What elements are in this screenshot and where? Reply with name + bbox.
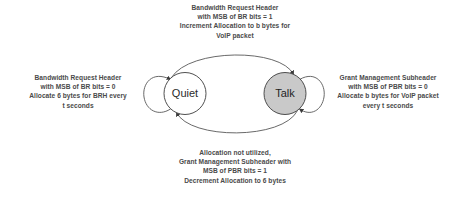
transition-label-quiet-to-talk: Bandwidth Request Header with MSB of BR …	[142, 3, 328, 40]
transition-label-talk-to-quiet: Allocation not utilized, Grant Managemen…	[138, 148, 332, 185]
transition-label-talk-self-loop: Grant Management Subheader with MSB of P…	[317, 73, 459, 110]
transition-label-quiet-self-loop: Bandwidth Request Header with MSB of BR …	[8, 73, 148, 110]
state-node-quiet-label: Quiet	[164, 88, 206, 99]
state-node-talk-label: Talk	[264, 88, 306, 99]
